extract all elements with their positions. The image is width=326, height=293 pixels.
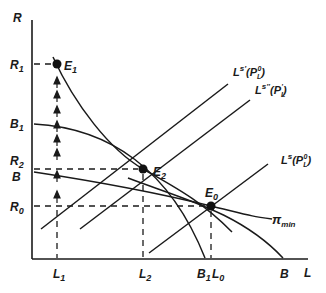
tick-B1: B1 <box>197 267 211 283</box>
label-Ls-prime: Ls'(PL0) <box>233 64 265 80</box>
tick-L0: L0 <box>212 267 224 283</box>
economics-diagram: R L R1 B1 R2 B R0 L1 L2 B1 L0 B E1 E2 E0… <box>0 0 326 293</box>
label-Ls-dprime: Ls''(PL') <box>255 82 287 98</box>
label-E1: E1 <box>64 59 77 75</box>
tick-R0: R0 <box>10 200 24 216</box>
y-axis-label: R <box>13 11 22 25</box>
E2-point <box>139 165 148 174</box>
tick-R1: R1 <box>10 58 24 74</box>
label-E0: E0 <box>205 186 218 202</box>
tick-R2: R2 <box>10 154 24 170</box>
pi-min-curve <box>34 172 272 219</box>
tick-L1: L1 <box>53 267 65 283</box>
tick-B: B <box>280 267 289 281</box>
E0-point <box>207 202 216 211</box>
label-Ls: Ls(PL0) <box>281 152 311 168</box>
Ls-prime-line <box>41 84 228 229</box>
label-E2: E2 <box>153 165 166 181</box>
E1-point <box>53 60 62 69</box>
tick-B1: B1 <box>10 117 24 133</box>
arrow-column <box>54 77 60 203</box>
x-axis-label: L <box>304 266 311 280</box>
tick-B: B <box>12 170 21 184</box>
tick-L2: L2 <box>139 267 151 283</box>
label-pi-min: πmin <box>272 212 296 229</box>
